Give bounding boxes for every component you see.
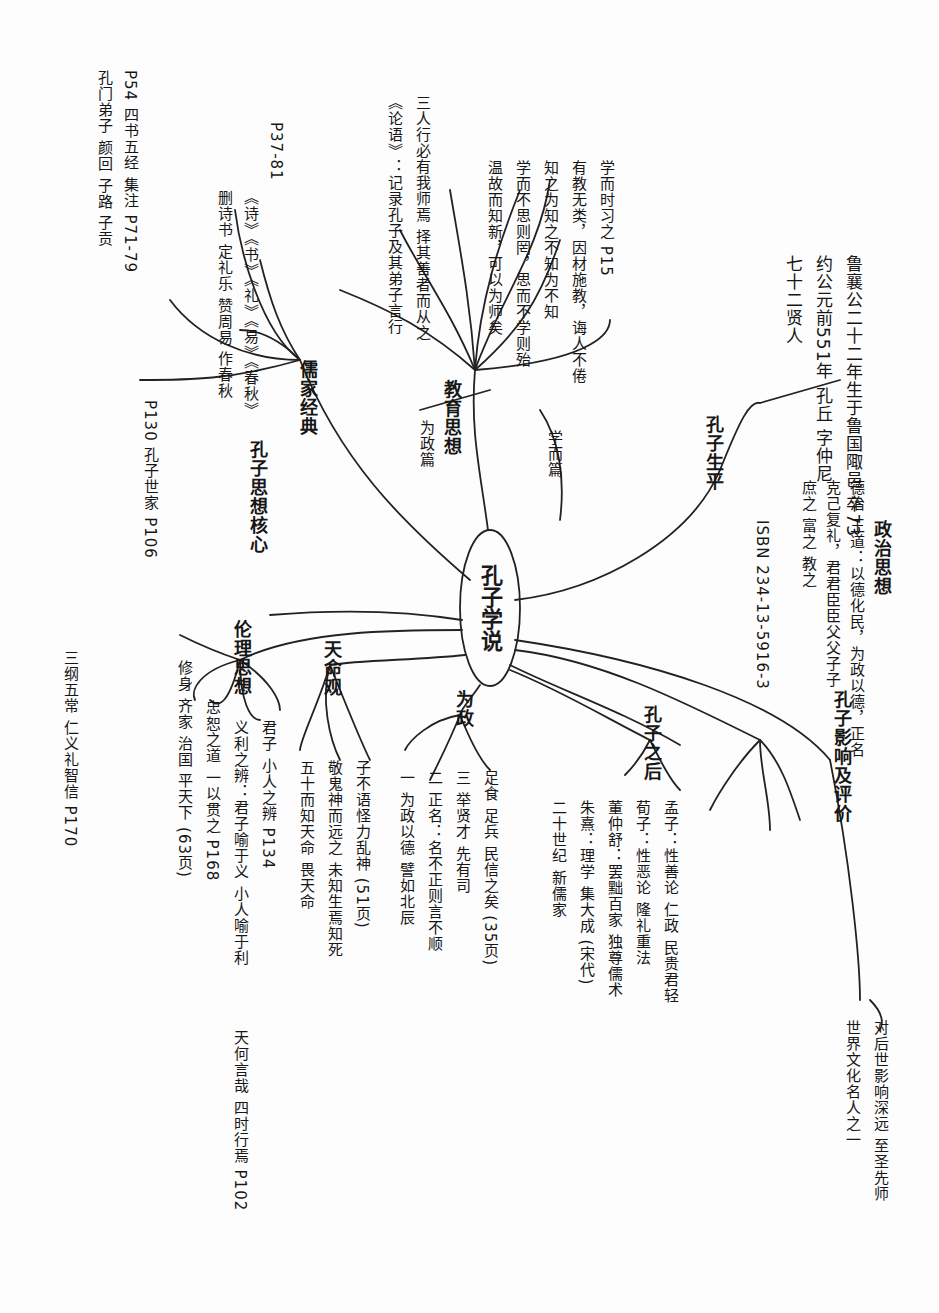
paper-page: 孔子学说 孔子生平 鲁襄公二十二年生于鲁国陬邑 卒73 约公元前551年 孔丘 … — [0, 0, 939, 1313]
note-classics-ref: P37-81 — [266, 122, 285, 181]
note-biography-2: 约公元前551年 孔丘 字仲尼 — [812, 255, 834, 483]
note-classics-5: P130 孔子世家 P106 — [140, 400, 159, 559]
note-legacy-2: 荀子：性恶论 隆礼重法 — [632, 800, 651, 966]
note-politics-2: 克己复礼，君君臣臣父父子子 — [822, 480, 841, 688]
note-ethics-3: 忠恕之道 一以贯之 P168 — [202, 700, 221, 881]
note-legacy-3: 董仲舒：罢黜百家 独尊儒术 — [604, 800, 623, 998]
note-politics-3: 庶之 富之 教之 — [798, 480, 817, 588]
note-heaven-2: 敬鬼神而远之 未知生焉知死 — [324, 760, 343, 958]
note-legacy-1: 孟子：性善论 仁政 民贵君轻 — [660, 800, 679, 1004]
note-classics-4: 孔门弟子 颜回 子路 子贡 — [94, 70, 113, 247]
branch-label-core: 孔子思想核心 — [246, 440, 268, 554]
branch-label-legacy: 孔子之后 — [640, 705, 662, 781]
note-politics-isbn: ISBN 234-13-5916-3 — [752, 520, 771, 690]
note-classics-2: 删诗书 定礼乐 赞周易 作春秋 — [214, 190, 233, 399]
note-ethics-2: 义利之辨：君子喻于义 小人喻于利 — [230, 720, 249, 966]
note-education-7: 《论语》：记录孔子及其弟子言行 — [384, 95, 403, 335]
note-education-6: 三人行必有我师焉 择其善者而从之 — [412, 95, 431, 341]
note-ethics-4: 修身 齐家 治国 平天下 (63页) — [174, 660, 193, 878]
note-ethics-5: 三纲五常 仁义礼智信 P170 — [60, 650, 79, 847]
note-influence-2: 世界文化名人之一 — [842, 1020, 861, 1148]
note-education-1: 学而时习之 P15 — [596, 160, 615, 277]
branch-label-heaven: 天命观 — [320, 640, 342, 697]
note-biography-3: 七十二贤人 — [782, 255, 804, 345]
note-heaven-3: 子不语怪力乱神 (51页) — [352, 760, 371, 929]
note-education-2: 有教无类，因材施教，诲人不倦 — [568, 160, 587, 384]
note-governance-1: 一 为政以德 譬如北辰 — [396, 770, 415, 926]
note-legacy-5: 二十世纪 新儒家 — [548, 800, 567, 918]
branch-label-politics: 政治思想 — [870, 520, 892, 596]
note-governance-3: 三 举贤才 先有司 — [452, 770, 471, 894]
note-ethics-1: 君子 小人之辨 P134 — [258, 720, 277, 869]
note-classics-1: 《诗》《书》《礼》《易》《春秋》 — [240, 190, 259, 418]
note-education-3: 知之为知之不知为不知 — [540, 160, 559, 320]
branch-label-classics: 儒家经典 — [296, 360, 318, 436]
sub-education-1: 学而篇 — [544, 430, 563, 478]
branch-label-influence: 孔子影响及评价 — [830, 690, 852, 823]
sub-education-2: 为政篇 — [416, 420, 435, 468]
branch-label-governance: 为政 — [452, 690, 474, 728]
note-education-5: 温故而知新，可以为师矣 — [484, 160, 503, 336]
branch-label-ethics: 伦理思想 — [230, 620, 252, 696]
central-node-label: 孔子学说 — [462, 548, 518, 668]
note-governance-4: 足食 足兵 民信之矣 (35页) — [480, 770, 499, 966]
branch-label-education: 教育思想 — [440, 380, 462, 456]
note-influence-1: 对后世影响深远 至圣先师 — [870, 1020, 889, 1202]
branch-label-biography: 孔子生平 — [702, 415, 724, 491]
note-legacy-4: 朱熹：理学 集大成 (宋代) — [576, 800, 595, 985]
note-classics-3: P54 四书五经 集注 P71-79 — [120, 70, 139, 273]
note-heaven-1: 五十而知天命 畏天命 — [296, 760, 315, 910]
note-heaven-4: 天何言哉 四时行焉 P102 — [230, 1030, 249, 1211]
note-governance-2: 二 正名：名不正则言不顺 — [424, 770, 443, 952]
note-education-4: 学而不思则罔，思而不学则殆 — [512, 160, 531, 368]
